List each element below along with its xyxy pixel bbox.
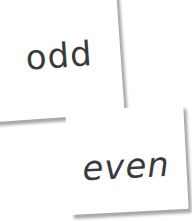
card-label-even: even bbox=[81, 144, 170, 189]
card-even[interactable]: even bbox=[65, 105, 188, 215]
card-odd[interactable]: odd bbox=[0, 0, 125, 123]
card-label-odd: odd bbox=[24, 33, 94, 78]
